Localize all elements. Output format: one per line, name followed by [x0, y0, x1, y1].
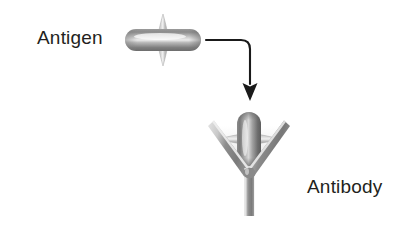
antibody-hinge — [243, 168, 255, 178]
antibody-label: Antibody — [307, 177, 383, 196]
flow-arrow-shaft — [206, 40, 250, 84]
bound-antigen-specular-highlight — [242, 120, 248, 156]
flow-arrow-head-icon — [243, 83, 258, 101]
antibody-complex — [208, 112, 290, 216]
antibody-hinge-highlight — [245, 168, 249, 175]
figure-canvas: Antigen Antibody — [0, 0, 409, 229]
flow-arrow — [206, 40, 258, 101]
free-antigen — [125, 14, 201, 66]
antigen-label: Antigen — [37, 28, 103, 47]
free-antigen-specular-highlight — [134, 33, 186, 40]
free-antigen-capsule-endshade — [125, 29, 201, 51]
